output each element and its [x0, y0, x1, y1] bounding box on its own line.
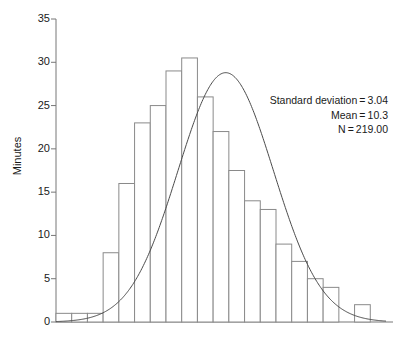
histogram-bar [229, 171, 245, 323]
annotation-n: N = 219.00 [238, 122, 388, 137]
histogram-bar [182, 58, 198, 322]
histogram-bar [307, 279, 323, 322]
histogram-chart: Minutes 05101520253035 Standard deviatio… [0, 0, 393, 344]
histogram-bar [292, 261, 308, 322]
histogram-bar [276, 244, 292, 322]
histogram-bar [260, 209, 276, 322]
histogram-bar [119, 183, 135, 322]
histogram-bar [213, 132, 229, 322]
plot-area [0, 0, 393, 344]
annotation-mean: Mean = 10.3 [238, 108, 388, 123]
statistics-annotation: Standard deviation = 3.04 Mean = 10.3 N … [238, 93, 388, 137]
histogram-bar [166, 71, 182, 322]
histogram-bar [197, 97, 213, 322]
histogram-bar [245, 201, 261, 322]
histogram-bar [135, 123, 151, 322]
annotation-std-dev: Standard deviation = 3.04 [238, 93, 388, 108]
